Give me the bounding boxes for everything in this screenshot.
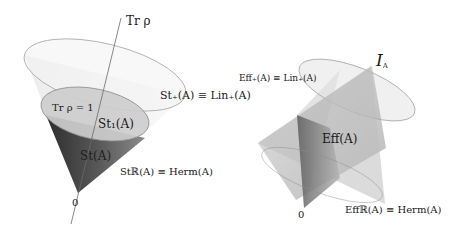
origin-label: 0 [72,198,78,208]
figure-canvas: Tr ρ St₊(A) ≡ Lin₊(A) Tr ρ = 1 St₁(A) St… [0,0,472,233]
trace-axis-label: Tr ρ [126,15,151,27]
identity-label: IA [376,52,388,70]
effect-origin-label: 0 [298,210,304,220]
effect-real-span-label: Effℝ(A) ≡ Herm(A) [345,205,441,215]
normalization-label: Tr ρ = 1 [52,103,94,113]
effects-label: Eff(A) [322,133,357,145]
normalized-states-label: St₁(A) [98,118,134,130]
effect-positive-cone-label: Eff₊(A) ≡ Lin₊(A) [239,74,316,83]
state-cone-label: St(A) [80,150,111,162]
state-cone-diagram [0,0,472,233]
real-span-label: Stℝ(A) ≡ Herm(A) [120,167,213,177]
positive-cone-label: St₊(A) ≡ Lin₊(A) [160,90,251,101]
